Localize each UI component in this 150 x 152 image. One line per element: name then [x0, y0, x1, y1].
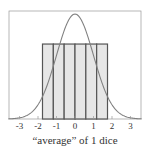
x-tick-label: -1	[53, 121, 61, 131]
histogram-bar	[75, 44, 86, 119]
x-tick-label: 0	[73, 121, 78, 131]
histogram-bar	[53, 44, 64, 119]
x-tick-label: 1	[91, 121, 96, 131]
x-axis-label: “average” of 1 dice	[0, 134, 150, 146]
chart: -3-2-10123	[0, 0, 150, 152]
x-tick-label: 3	[128, 121, 133, 131]
histogram-bar	[64, 44, 75, 119]
x-tick-label: -2	[34, 121, 42, 131]
x-tick-label: -3	[16, 121, 24, 131]
histogram-bar	[86, 44, 97, 119]
x-tick-label: 2	[110, 121, 115, 131]
